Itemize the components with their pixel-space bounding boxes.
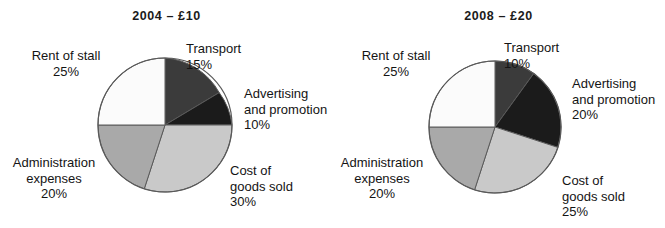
- label-transport-value: 10%: [504, 56, 559, 72]
- label-transport-name: Transport: [186, 41, 241, 56]
- label-advertising-value: 10%: [244, 117, 327, 133]
- label-transport-name: Transport: [504, 40, 559, 55]
- label-rent-value: 25%: [351, 64, 441, 80]
- label-advertising-line1: Advertising: [244, 86, 308, 101]
- label-cost-line1: Cost of: [562, 173, 603, 188]
- label-advertising-line2: and promotion: [244, 102, 327, 118]
- label-transport: Transport 10%: [504, 40, 559, 71]
- label-rent-name: Rent of stall: [32, 48, 101, 63]
- label-cost-line2: goods sold: [562, 189, 625, 205]
- label-administration-line1: Administration: [341, 155, 423, 170]
- label-advertising-value: 20%: [572, 107, 655, 123]
- label-transport: Transport 15%: [186, 41, 241, 72]
- label-rent-value: 25%: [21, 64, 111, 80]
- label-advertising-line2: and promotion: [572, 92, 655, 108]
- label-administration-expenses: Administration expenses 20%: [332, 155, 432, 202]
- label-advertising-and-promotion: Advertising and promotion 10%: [244, 86, 327, 133]
- label-cost-of-goods-sold: Cost of goods sold 30%: [230, 163, 293, 210]
- label-administration-line1: Administration: [13, 155, 95, 170]
- label-advertising-and-promotion: Advertising and promotion 20%: [572, 76, 655, 123]
- label-administration-line2: expenses: [332, 171, 432, 187]
- label-cost-line2: goods sold: [230, 179, 293, 195]
- label-transport-value: 15%: [186, 57, 241, 73]
- label-cost-line1: Cost of: [230, 163, 271, 178]
- label-rent-name: Rent of stall: [362, 48, 431, 63]
- label-cost-value: 25%: [562, 204, 625, 220]
- pie-chart-2008: 2008 – £20 Transport 10% Advertising and…: [332, 0, 665, 228]
- label-administration-line2: expenses: [4, 171, 104, 187]
- label-rent-of-stall: Rent of stall 25%: [21, 48, 111, 79]
- label-administration-value: 20%: [4, 186, 104, 202]
- pie-chart-2004: 2004 – £10 Transport 15% Advertising and…: [0, 0, 333, 228]
- label-advertising-line1: Advertising: [572, 76, 636, 91]
- label-rent-of-stall: Rent of stall 25%: [351, 48, 441, 79]
- label-cost-value: 30%: [230, 194, 293, 210]
- label-administration-expenses: Administration expenses 20%: [4, 155, 104, 202]
- label-administration-value: 20%: [332, 186, 432, 202]
- label-cost-of-goods-sold: Cost of goods sold 25%: [562, 173, 625, 220]
